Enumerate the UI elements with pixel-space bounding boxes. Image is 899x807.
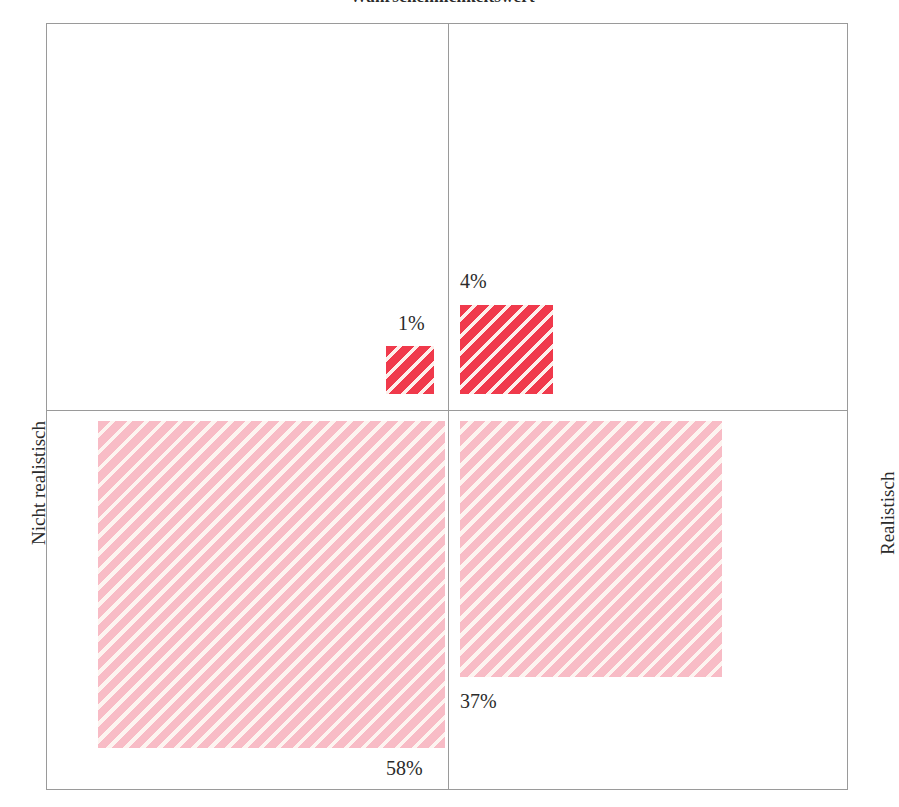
chart-title: Wahrscheinlichkeitswert xyxy=(0,0,885,7)
value-label-top-right: 4% xyxy=(460,270,487,293)
vertical-divider-line xyxy=(448,23,449,790)
quadrant-square-bottom-left xyxy=(98,421,445,748)
quadrant-square-bottom-right xyxy=(460,421,722,677)
horizontal-divider-line xyxy=(46,410,848,411)
value-label-bottom-right: 37% xyxy=(460,690,497,713)
value-label-bottom-left: 58% xyxy=(386,757,423,780)
value-label-top-left: 1% xyxy=(398,312,425,335)
quadrant-square-top-right xyxy=(460,305,553,394)
quadrant-square-top-left xyxy=(386,346,434,394)
axis-label-nicht-realistisch: Nicht realistisch xyxy=(28,421,50,545)
axis-label-realistisch: Realistisch xyxy=(877,472,899,555)
